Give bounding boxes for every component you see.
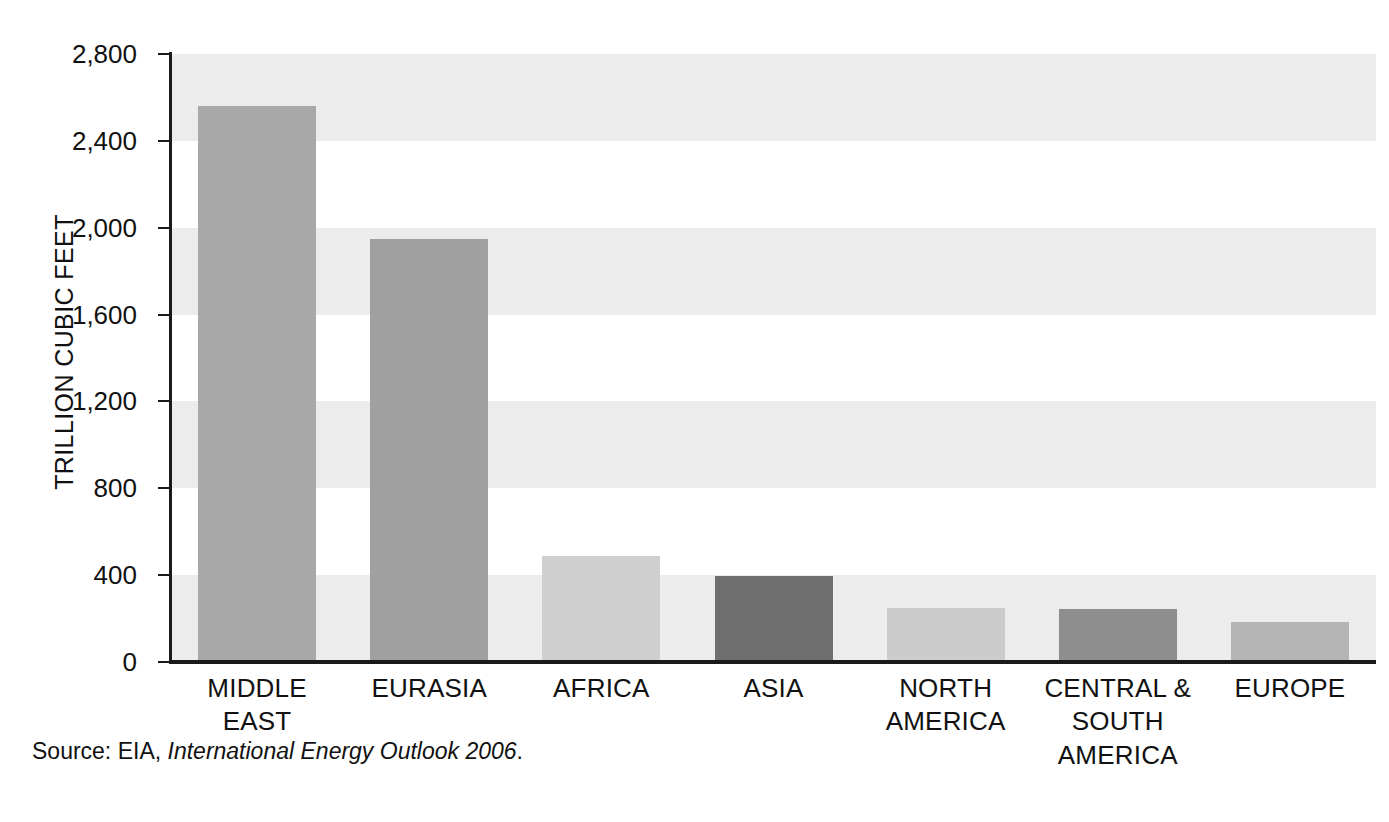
x-category-label: EURASIA <box>343 672 515 705</box>
plot-area <box>171 54 1376 662</box>
bar <box>1059 609 1177 662</box>
y-tick-label: 400 <box>11 562 151 588</box>
x-category-label-line: AMERICA <box>860 705 1032 738</box>
x-category-label-line: ASIA <box>687 672 859 705</box>
y-tick-label: 2,000 <box>11 215 151 241</box>
y-tick-label: 800 <box>11 475 151 501</box>
bar <box>542 556 660 662</box>
bar-chart-figure: TRILLION CUBIC FEET 04008001,2001,6002,0… <box>0 0 1389 822</box>
x-category-label-line: AMERICA <box>1032 739 1204 772</box>
y-tick-label: 1,200 <box>11 388 151 414</box>
y-tick-label: 0 <box>11 649 151 675</box>
x-category-label: MIDDLEEAST <box>171 672 343 739</box>
bar <box>370 239 488 662</box>
source-note: Source: EIA, International Energy Outloo… <box>32 738 523 765</box>
x-category-label-line: EAST <box>171 705 343 738</box>
bar <box>198 106 316 662</box>
x-category-label: CENTRAL &SOUTHAMERICA <box>1032 672 1204 772</box>
y-tick-label: 2,800 <box>11 41 151 67</box>
x-category-label: NORTHAMERICA <box>860 672 1032 739</box>
x-category-label: ASIA <box>687 672 859 705</box>
x-category-label-line: CENTRAL & <box>1032 672 1204 705</box>
source-suffix: . <box>517 738 523 764</box>
y-axis-line <box>169 52 172 664</box>
background-band <box>171 401 1376 488</box>
x-category-label-line: NORTH <box>860 672 1032 705</box>
y-tick-label: 2,400 <box>11 128 151 154</box>
x-category-label: EUROPE <box>1204 672 1376 705</box>
x-category-label-line: AFRICA <box>515 672 687 705</box>
source-publication-title: International Energy Outlook 2006 <box>168 738 517 764</box>
background-band <box>171 228 1376 315</box>
x-category-label-line: EURASIA <box>343 672 515 705</box>
y-tick-label: 1,600 <box>11 302 151 328</box>
x-category-label-line: EUROPE <box>1204 672 1376 705</box>
background-band <box>171 54 1376 141</box>
source-prefix: Source: EIA, <box>32 738 161 764</box>
x-axis-line <box>169 660 1376 664</box>
bar <box>1231 622 1349 662</box>
x-category-label: AFRICA <box>515 672 687 705</box>
bar <box>887 608 1005 662</box>
bar <box>715 576 833 662</box>
x-category-label-line: MIDDLE <box>171 672 343 705</box>
x-category-label-line: SOUTH <box>1032 705 1204 738</box>
